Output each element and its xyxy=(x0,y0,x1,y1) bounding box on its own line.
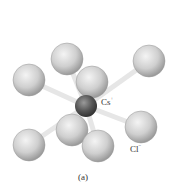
cl-ion xyxy=(51,43,83,75)
cs-label: Cs+ xyxy=(101,97,113,107)
cl-ion xyxy=(125,111,157,143)
cl-ion xyxy=(13,64,45,96)
cl-ion xyxy=(82,130,114,162)
cl-ion xyxy=(13,129,45,161)
caption: (a) xyxy=(78,172,88,182)
cs-ion xyxy=(75,95,97,117)
cl-ion xyxy=(133,45,165,77)
cl-ion xyxy=(76,66,108,98)
cscl-structure-diagram xyxy=(0,0,176,189)
cl-label: Cl− xyxy=(130,144,141,154)
front-chloride-ions xyxy=(13,111,157,162)
